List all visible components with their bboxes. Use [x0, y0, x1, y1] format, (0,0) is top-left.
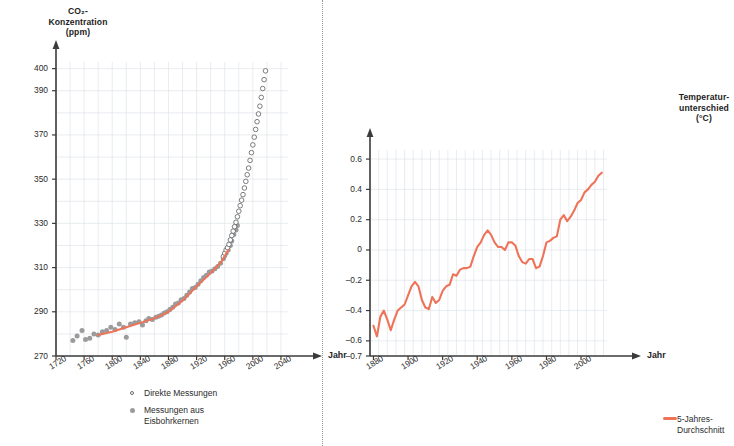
- co2-plot-area: [0, 0, 350, 446]
- y-tick-label: –0.4: [324, 305, 362, 315]
- y-tick-label: 330: [10, 218, 48, 228]
- co2-legend-label: Messungen aus Eisbohrkernen: [144, 405, 204, 427]
- y-tick-label: 390: [10, 85, 48, 95]
- y-tick-label: 0.2: [324, 214, 362, 224]
- y-tick-label: –0.6: [324, 335, 362, 345]
- y-tick-label: 0.4: [324, 184, 362, 194]
- co2-legend-label: Direkte Messungen: [144, 388, 217, 399]
- y-tick-label: 0.6: [324, 154, 362, 164]
- temperature-legend: 5-Jahres-Durchschnitt: [663, 414, 724, 442]
- co2-chart-panel: CO₂- Konzentration (ppm) 270290310330350…: [0, 0, 322, 446]
- co2-legend-entry[interactable]: Messungen aus Eisbohrkernen: [130, 405, 217, 427]
- y-tick-label: 0: [324, 244, 362, 254]
- line-swatch-icon: [663, 414, 677, 420]
- y-tick-label: 290: [10, 306, 48, 316]
- temperature-legend-label: 5-Jahres-Durchschnitt: [677, 414, 724, 436]
- y-tick-label: 370: [10, 129, 48, 139]
- y-tick-label: –0.7: [324, 351, 362, 361]
- filled-circle-icon: [130, 405, 144, 413]
- line-glyph: [663, 417, 677, 420]
- temperature-x-axis-name: Jahr: [647, 350, 666, 360]
- open-circle-glyph: [130, 391, 134, 395]
- filled-circle-glyph: [130, 408, 135, 413]
- temperature-legend-entry[interactable]: 5-Jahres-Durchschnitt: [663, 414, 724, 436]
- open-circle-icon: [130, 388, 144, 395]
- y-tick-label: 350: [10, 174, 48, 184]
- y-tick-label: –0.2: [324, 275, 362, 285]
- co2-legend: Direkte MessungenMessungen aus Eisbohrke…: [130, 388, 217, 433]
- co2-legend-entry[interactable]: Direkte Messungen: [130, 388, 217, 399]
- y-tick-label: 400: [10, 63, 48, 73]
- y-tick-label: 270: [10, 351, 48, 361]
- temperature-plot-area: [323, 0, 673, 446]
- y-tick-label: 310: [10, 262, 48, 272]
- temperature-chart-panel: Temperatur- unterschied (°C) 0.60.40.20–…: [323, 0, 673, 446]
